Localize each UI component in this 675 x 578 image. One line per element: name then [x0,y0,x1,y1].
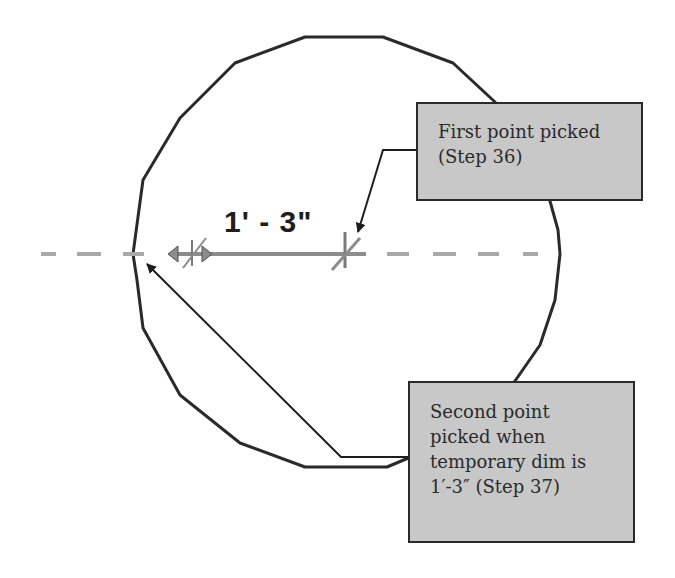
leader-first-point [358,150,417,232]
dimension-label: 1' - 3" [224,205,312,239]
callout-second-point: Second point picked when temporary dim i… [408,381,635,543]
leader-second-point [147,264,408,457]
dimension-left-arrow-icon-right [202,246,212,262]
callout-first-point: First point picked (Step 36) [416,102,643,201]
dimension-left-arrow-icon [168,246,178,262]
